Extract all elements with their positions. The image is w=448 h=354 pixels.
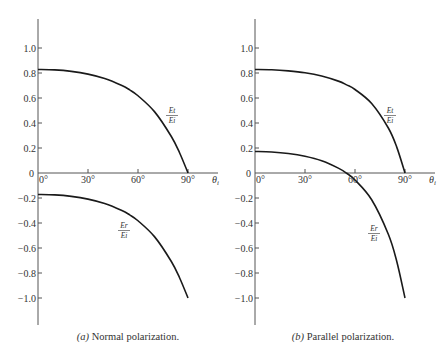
y-tick-label: −0.8 xyxy=(18,268,36,279)
y-tick-label: −0.2 xyxy=(235,193,253,204)
x-tick-label: 90° xyxy=(181,174,195,185)
y-tick-label: −0.8 xyxy=(235,268,253,279)
y-tick-label: 1.0 xyxy=(24,43,37,54)
x-tick-label: 0° xyxy=(256,174,265,185)
transmission-curve xyxy=(38,70,188,174)
y-tick-label: −0.2 xyxy=(18,193,36,204)
transmission-label: EtEi xyxy=(384,106,396,125)
svg-text:Er: Er xyxy=(119,221,128,230)
svg-text:Et: Et xyxy=(168,106,177,115)
y-tick-label: 0.4 xyxy=(24,118,37,129)
y-tick-label: 0.4 xyxy=(241,118,254,129)
chart-parallel-polarization: 1.00.80.60.40.20−0.2−0.4−0.6−0.8−1.00°30… xyxy=(235,19,436,343)
y-tick-label: −1.0 xyxy=(235,293,253,304)
transmission-label: EtEi xyxy=(166,106,178,125)
x-tick-label: 30° xyxy=(298,174,312,185)
svg-text:Ei: Ei xyxy=(168,116,176,125)
y-tick-label: −1.0 xyxy=(18,293,36,304)
y-tick-label: 0.2 xyxy=(241,143,254,154)
y-tick-label: −0.6 xyxy=(18,243,36,254)
y-tick-label: 0.8 xyxy=(24,68,37,79)
y-tick-label: 0.6 xyxy=(241,93,254,104)
svg-text:Ei: Ei xyxy=(120,231,128,240)
transmission-curve xyxy=(255,70,405,174)
svg-text:Ei: Ei xyxy=(386,116,394,125)
y-tick-label: 0.6 xyxy=(24,93,37,104)
x-tick-label: 90° xyxy=(398,174,412,185)
reflection-label: ErEi xyxy=(118,221,130,240)
chart-normal-polarization: 1.00.80.60.40.20−0.2−0.4−0.6−0.8−1.00°30… xyxy=(18,19,219,343)
x-tick-label: 60° xyxy=(131,174,145,185)
svg-text:Et: Et xyxy=(386,106,395,115)
y-tick-label: −0.4 xyxy=(18,218,36,229)
y-tick-label: 1.0 xyxy=(241,43,254,54)
y-tick-label: 0.8 xyxy=(241,68,254,79)
figure: 1.00.80.60.40.20−0.2−0.4−0.6−0.8−1.00°30… xyxy=(0,0,448,354)
x-axis-label: θi xyxy=(212,174,219,187)
svg-text:Er: Er xyxy=(369,224,378,233)
x-axis-label: θi xyxy=(429,174,436,187)
reflection-label: ErEi xyxy=(368,224,380,243)
y-tick-label: 0 xyxy=(246,168,251,179)
y-tick-label: 0.2 xyxy=(24,143,37,154)
svg-text:Ei: Ei xyxy=(370,234,378,243)
y-tick-label: −0.4 xyxy=(235,218,253,229)
reflection-curve xyxy=(38,195,188,299)
y-tick-label: 0 xyxy=(29,168,34,179)
chart-caption: (a) Normal polarization. xyxy=(77,331,179,343)
x-tick-label: 0° xyxy=(39,174,48,185)
y-tick-label: −0.6 xyxy=(235,243,253,254)
chart-caption: (b) Parallel polarization. xyxy=(292,331,394,343)
x-tick-label: 30° xyxy=(81,174,95,185)
